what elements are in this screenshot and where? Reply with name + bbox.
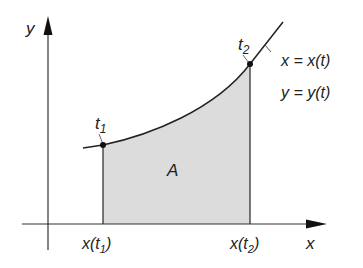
point-t1 <box>100 142 106 148</box>
x-axis-label: x <box>305 234 315 253</box>
x-t2-tick-label: x(t2) <box>229 235 259 255</box>
t1-label: t1 <box>95 114 106 136</box>
area-label: A <box>166 161 178 180</box>
parametric-area-diagram: y x t1 t2 x = x(t) y = y(t) A x(t1) x(t2… <box>0 0 363 268</box>
y-axis-arrow-icon <box>44 16 53 35</box>
y-axis-label: y <box>25 19 36 38</box>
x-axis-arrow-icon <box>306 220 327 229</box>
curve-tick <box>265 45 271 52</box>
equation-y: y = y(t) <box>280 84 330 101</box>
equation-x: x = x(t) <box>280 52 330 69</box>
point-t2 <box>247 61 253 67</box>
x-t1-tick-label: x(t1) <box>81 235 111 255</box>
t2-label: t2 <box>238 35 250 57</box>
